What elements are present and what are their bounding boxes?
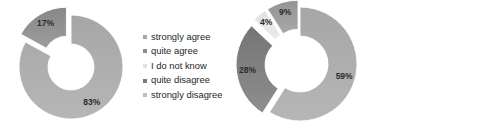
slice-value-label: 9%: [279, 7, 292, 17]
legend-item-label: strongly disagree: [151, 90, 222, 99]
legend-swatch-icon: [143, 35, 147, 39]
donut-chart-left: 83%17%: [0, 0, 144, 131]
chart-panel-right: 59%28%4%9% strongly agreequite agreeI do…: [232, 0, 488, 131]
legend-left: strongly agreequite agreeI do not knowqu…: [143, 29, 222, 102]
slice-value-label: 17%: [37, 18, 54, 28]
donut-svg-left: 83%17%: [0, 0, 144, 131]
slice-value-label: 4%: [260, 17, 273, 27]
chart-figure: 83%17% strongly agreequite agreeI do not…: [0, 0, 488, 131]
legend-swatch-icon: [143, 64, 147, 68]
legend-item-label: I do not know: [151, 61, 207, 70]
legend-item-label: quite agree: [151, 46, 198, 55]
donut-chart-right: 59%28%4%9%: [232, 0, 488, 131]
legend-item-label: strongly agree: [151, 32, 210, 41]
slice-value-label: 59%: [336, 71, 353, 81]
slice-value-label: 28%: [239, 65, 256, 75]
legend-swatch-icon: [143, 49, 147, 53]
legend-item[interactable]: quite disagree: [143, 73, 222, 88]
legend-item[interactable]: quite agree: [143, 44, 222, 59]
legend-item[interactable]: strongly agree: [143, 29, 222, 44]
chart-panel-left: 83%17% strongly agreequite agreeI do not…: [0, 0, 244, 131]
slice-value-label: 83%: [83, 97, 100, 107]
legend-item[interactable]: I do not know: [143, 58, 222, 73]
legend-item-label: quite disagree: [151, 75, 210, 84]
legend-swatch-icon: [143, 79, 147, 83]
donut-svg-right: 59%28%4%9%: [232, 0, 488, 131]
legend-swatch-icon: [143, 93, 147, 97]
legend-item[interactable]: strongly disagree: [143, 87, 222, 102]
